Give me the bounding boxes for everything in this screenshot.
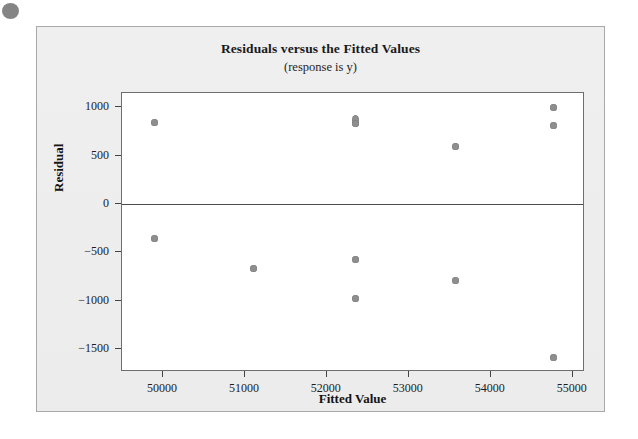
scatter-point: [352, 120, 359, 127]
y-axis-tick-label: 0: [47, 196, 109, 211]
scatter-point: [250, 265, 257, 272]
y-axis-tick-label: −1500: [47, 340, 109, 355]
y-axis-tick-label: 1000: [47, 99, 109, 114]
chart-subtitle: (response is y): [37, 60, 604, 75]
scatter-point: [550, 354, 557, 361]
page-artifact-dot: [2, 3, 19, 19]
zero-reference-line: [122, 204, 583, 205]
x-axis-tick-mark: [408, 371, 409, 377]
x-axis-title: Fitted Value: [121, 391, 584, 407]
y-axis-tick-label: −500: [47, 244, 109, 259]
scatter-point: [452, 143, 459, 150]
x-axis-tick-mark: [162, 371, 163, 377]
x-axis-tick-mark: [490, 371, 491, 377]
x-axis-tick-label: 55000: [557, 381, 587, 396]
x-axis-tick-label: 54000: [475, 381, 505, 396]
x-axis-tick-label: 51000: [229, 381, 259, 396]
x-axis-tick-mark: [244, 371, 245, 377]
scatter-point: [352, 256, 359, 263]
scatter-point: [452, 277, 459, 284]
x-axis-tick-label: 52000: [311, 381, 341, 396]
x-axis-tick-label: 53000: [393, 381, 423, 396]
x-axis-tick-mark: [572, 371, 573, 377]
scatter-point: [550, 104, 557, 111]
x-axis-tick-label: 50000: [147, 381, 177, 396]
scatter-point: [352, 295, 359, 302]
page-title: Residuals versus the Fitted Values: [37, 41, 604, 57]
y-axis-tick-label: 500: [47, 147, 109, 162]
residual-plot-figure: Residuals versus the Fitted Values (resp…: [36, 26, 605, 412]
x-axis-tick-mark: [326, 371, 327, 377]
y-axis-tick-label: −1000: [47, 292, 109, 307]
scatter-point: [151, 235, 158, 242]
plot-area: [121, 92, 584, 371]
scatter-point: [550, 122, 557, 129]
scatter-point: [151, 119, 158, 126]
